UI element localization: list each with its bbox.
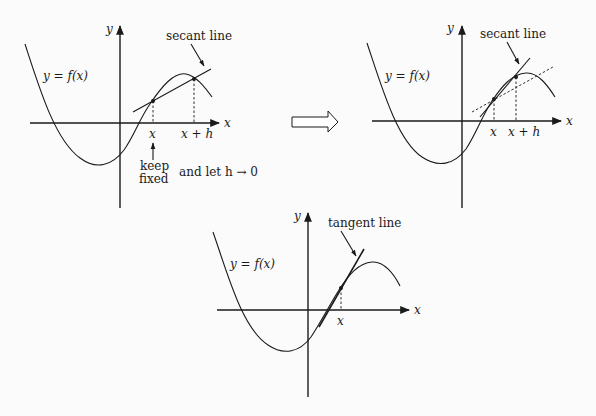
keep-label: keep	[140, 159, 169, 173]
secant-label-pointer	[191, 44, 204, 66]
point-x-plus-h	[192, 77, 196, 81]
point-x-plus-h	[514, 75, 518, 79]
point-x	[339, 286, 343, 290]
previous-secant-line	[472, 67, 553, 112]
function-label: y = f(x)	[229, 257, 275, 271]
secant-line-label: secant line	[166, 29, 232, 43]
function-label: y = f(x)	[384, 69, 430, 83]
x-axis-label: x	[224, 116, 231, 130]
tick-label-x: x	[490, 125, 497, 139]
y-axis-label: y	[105, 22, 113, 36]
panel-secant: y x secant line y = f(x) x x + h keep fi…	[25, 22, 258, 208]
secant-to-tangent-diagram: y x secant line y = f(x) x x + h keep fi…	[0, 0, 596, 416]
point-x	[492, 97, 496, 101]
secant-line	[133, 69, 211, 112]
tangent-label-pointer	[341, 231, 356, 256]
fixed-label: fixed	[139, 172, 169, 186]
function-curve	[25, 44, 212, 165]
point-x	[151, 99, 155, 103]
function-curve	[213, 232, 400, 351]
let-h-approach-zero-label: and let h → 0	[179, 165, 258, 179]
tick-label-x-plus-h: x + h	[508, 125, 540, 139]
secant-line	[480, 58, 530, 117]
panel-secant-approaching: y x secant line y = f(x) x x + h	[367, 21, 573, 208]
right-hollow-arrow-icon	[292, 111, 338, 132]
tick-label-x-plus-h: x + h	[181, 127, 213, 141]
function-label: y = f(x)	[42, 69, 88, 83]
panel-tangent: y x tangent line y = f(x) x	[213, 209, 421, 397]
secant-label-pointer	[507, 42, 519, 64]
x-axis-label: x	[414, 303, 421, 317]
y-axis-label: y	[293, 209, 301, 223]
x-axis-label: x	[566, 114, 573, 128]
tangent-line-label: tangent line	[328, 216, 401, 230]
y-axis-label: y	[446, 21, 454, 35]
secant-line-label: secant line	[480, 27, 546, 41]
tick-label-x: x	[337, 314, 344, 328]
tick-label-x: x	[149, 127, 156, 141]
